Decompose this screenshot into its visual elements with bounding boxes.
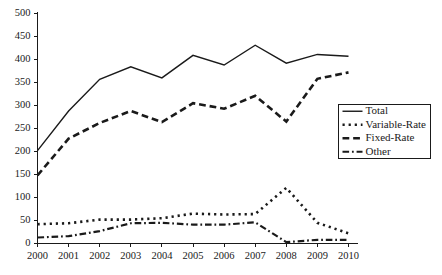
y-axis-tick-label: 350 <box>15 76 31 87</box>
series-line-other <box>38 222 349 242</box>
x-axis-tick-label: 2002 <box>89 250 110 261</box>
legend-label-total: Total <box>366 104 388 116</box>
y-axis-tick-label: 500 <box>15 7 31 18</box>
x-axis-tick-label: 2007 <box>245 250 266 261</box>
x-axis-tick-label: 2000 <box>27 250 48 261</box>
y-axis-tick-label: 250 <box>15 122 31 133</box>
x-axis-group: 2000200120022003200420052006200720082009… <box>27 244 359 261</box>
data-series-group <box>38 45 349 242</box>
legend-label-variable-rate: Variable-Rate <box>366 118 427 130</box>
x-tick-marks <box>38 244 349 248</box>
x-axis-tick-label: 2003 <box>120 250 141 261</box>
line-chart: 050100150200250300350400450500 200020012… <box>0 0 442 275</box>
x-axis-tick-label: 2009 <box>307 250 328 261</box>
y-axis-tick-label: 100 <box>15 191 31 202</box>
y-axis-tick-label: 300 <box>15 99 31 110</box>
series-line-total <box>38 45 349 150</box>
y-axis-tick-label: 200 <box>15 145 31 156</box>
x-axis-tick-label: 2010 <box>338 250 359 261</box>
x-tick-labels: 2000200120022003200420052006200720082009… <box>27 250 359 261</box>
x-axis-tick-label: 2006 <box>214 250 235 261</box>
y-tick-labels: 050100150200250300350400450500 <box>15 7 31 248</box>
series-line-variable-rate <box>38 188 349 234</box>
y-axis-tick-label: 0 <box>25 237 30 248</box>
x-axis-tick-label: 2008 <box>276 250 297 261</box>
y-axis-group: 050100150200250300350400450500 <box>15 7 38 248</box>
y-axis-tick-label: 50 <box>20 214 31 225</box>
y-axis-tick-label: 400 <box>15 53 31 64</box>
x-axis-tick-label: 2005 <box>183 250 204 261</box>
series-line-fixed-rate <box>38 72 349 175</box>
chart-legend: TotalVariable-RateFixed-RateOther <box>339 104 431 158</box>
x-axis-tick-label: 2004 <box>151 250 173 261</box>
y-axis-tick-label: 450 <box>15 30 31 41</box>
x-axis-tick-label: 2001 <box>58 250 79 261</box>
legend-label-other: Other <box>366 145 391 157</box>
legend-label-fixed-rate: Fixed-Rate <box>366 131 415 143</box>
chart-canvas: 050100150200250300350400450500 200020012… <box>0 0 442 275</box>
y-tick-marks <box>34 14 38 244</box>
y-axis-tick-label: 150 <box>15 168 31 179</box>
